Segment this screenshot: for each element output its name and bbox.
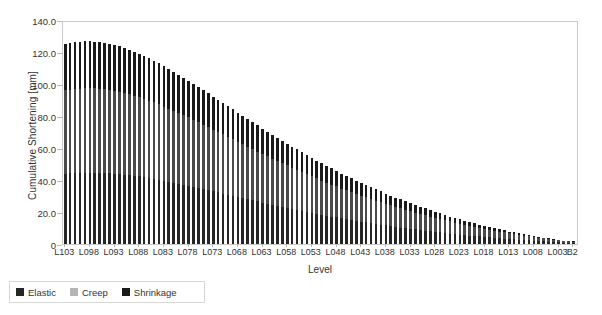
x-axis-tick-label: L103 [54,247,74,257]
bar-column [93,42,96,244]
legend-item-elastic[interactable]: Elastic [16,287,56,298]
bar-column [158,63,161,244]
bar-segment-elastic [493,238,496,244]
bar-segment-creep [365,197,368,222]
plot-inner [63,22,577,244]
bar-segment-creep [74,89,77,173]
bar-segment-creep [320,181,323,215]
bar-segment-elastic [153,179,156,244]
x-axis-tick [385,244,386,247]
bar-segment-elastic [182,185,185,244]
bar-segment-creep [103,89,106,173]
bar-column [187,81,190,244]
bar-segment-creep [488,230,491,238]
x-axis-tick-label: L018 [474,247,494,257]
bar-segment-elastic [108,173,111,244]
legend-label: Shrinkage [134,287,177,298]
bar-segment-creep [98,89,101,173]
bar-segment-shrinkage [251,122,254,149]
bar-segment-creep [172,111,175,183]
bar-column [148,58,151,244]
bar-segment-creep [355,194,358,221]
bar-segment-elastic [483,237,486,244]
bar-series-group [63,20,577,244]
bar-column [84,41,87,244]
x-axis-tick [572,244,573,247]
bar-segment-elastic [217,192,220,244]
bar-segment-shrinkage [315,161,318,179]
y-axis-tick-label: 60.0 [38,144,57,155]
bar-column [172,72,175,244]
y-axis-tick-label: 80.0 [38,112,57,123]
bar-segment-shrinkage [340,174,343,189]
bar-column [212,97,215,244]
bar-segment-elastic [518,240,521,244]
x-axis-tick-label: L078 [178,247,198,257]
bar-segment-shrinkage [271,135,274,159]
bar-segment-shrinkage [306,155,309,174]
bar-column [237,113,240,244]
bar-segment-elastic [355,221,358,244]
bar-column [488,227,491,244]
legend-item-shrinkage[interactable]: Shrinkage [122,287,177,298]
bar-segment-shrinkage [192,84,195,120]
bar-segment-shrinkage [276,138,279,161]
bar-segment-shrinkage [158,63,161,104]
y-axis-labels: 140.0120.0100.080.060.040.020.00 [0,0,60,246]
bar-segment-shrinkage [291,147,294,168]
bar-segment-creep [138,97,141,176]
bar-column [335,171,338,244]
bar-segment-elastic [488,237,491,244]
bar-segment-creep [296,170,299,210]
chart-legend: ElasticCreepShrinkage [9,281,205,303]
bar-segment-elastic [454,234,457,244]
bar-segment-shrinkage [266,132,269,157]
bar-segment-elastic [266,204,269,244]
bar-segment-creep [301,172,304,211]
bar-column [498,229,501,244]
bar-segment-elastic [177,184,180,244]
legend-item-creep[interactable]: Creep [70,287,108,298]
x-axis-tick-label: L013 [498,247,518,257]
bar-column [365,185,368,244]
bar-column [128,50,131,244]
bar-segment-creep [498,232,501,239]
bar-column [118,46,121,244]
x-axis-tick [262,244,263,247]
bar-segment-elastic [74,173,77,244]
bar-segment-shrinkage [404,201,407,209]
bar-segment-creep [266,156,269,203]
bar-segment-elastic [567,243,570,244]
bar-segment-elastic [69,173,72,244]
bar-segment-creep [419,214,422,230]
bar-column [414,205,417,244]
x-axis-tick-label: L063 [252,247,272,257]
bar-segment-elastic [320,215,323,244]
bar-column [177,75,180,244]
bar-column [153,61,156,244]
bar-column [222,103,225,244]
bar-segment-shrinkage [187,81,190,118]
bar-segment-creep [84,88,87,172]
bar-segment-shrinkage [355,181,358,194]
bar-segment-creep [281,163,284,207]
bar-segment-shrinkage [237,113,240,142]
bar-column [202,90,205,244]
bar-segment-creep [454,223,457,235]
bar-segment-elastic [523,240,526,244]
bar-segment-creep [251,149,254,200]
bar-column [167,69,170,244]
bar-segment-elastic [478,236,481,244]
bar-column [370,187,373,244]
bar-segment-shrinkage [222,103,225,134]
bar-segment-creep [108,90,111,173]
bar-segment-creep [424,215,427,231]
bar-segment-shrinkage [350,178,353,192]
bar-segment-shrinkage [296,149,299,169]
bar-segment-shrinkage [138,54,141,98]
bar-segment-shrinkage [84,41,87,88]
bar-segment-creep [345,190,348,219]
x-axis-tick [286,244,287,247]
bar-segment-shrinkage [375,189,378,200]
x-axis-tick [188,244,189,247]
